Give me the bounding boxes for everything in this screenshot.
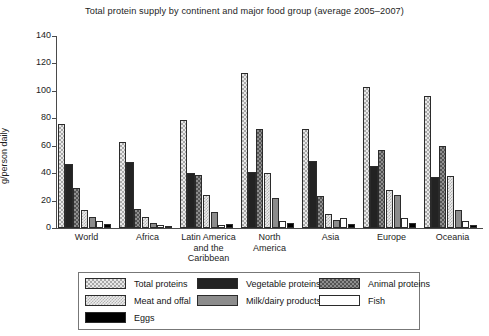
legend-swatch-icon: [197, 278, 238, 289]
plot-area: [56, 36, 483, 228]
bar: [165, 226, 172, 228]
bar-group: [363, 36, 416, 228]
bar: [317, 196, 324, 228]
bar: [203, 195, 210, 228]
bar: [104, 224, 111, 228]
bar: [119, 142, 126, 228]
y-axis-tick: [52, 118, 56, 119]
bar: [81, 210, 88, 228]
bar: [340, 218, 347, 228]
bar: [211, 212, 218, 228]
bar: [348, 224, 355, 228]
x-axis-category-label: Oceania: [413, 232, 489, 243]
bar: [73, 188, 80, 228]
bar: [470, 225, 477, 228]
bar: [439, 146, 446, 228]
legend-label: Fish: [368, 296, 385, 306]
bar: [134, 209, 141, 228]
bar: [401, 218, 408, 228]
y-axis-tick: [52, 201, 56, 202]
legend-item[interactable]: Fish: [319, 294, 385, 307]
bar: [287, 223, 294, 228]
legend-label: Milk/dairy products: [246, 296, 321, 306]
legend-item[interactable]: Animal proteins: [319, 277, 430, 290]
bar-group: [241, 36, 294, 228]
bar: [218, 225, 225, 228]
legend-label: Total proteins: [134, 279, 188, 289]
legend-items: Total proteinsVegetable proteinsAnimal p…: [79, 273, 419, 329]
legend-swatch-icon: [319, 278, 360, 289]
y-axis-tick: [52, 146, 56, 147]
y-axis-tick: [52, 36, 56, 37]
bar-group: [302, 36, 355, 228]
bar: [195, 175, 202, 228]
bar: [58, 124, 65, 228]
bar: [226, 224, 233, 228]
legend-item[interactable]: Vegetable proteins: [197, 277, 321, 290]
chart-legend: Total proteinsVegetable proteinsAnimal p…: [78, 272, 420, 330]
legend-label: Animal proteins: [368, 279, 430, 289]
y-axis-tick-labels: 020406080100120140: [18, 36, 51, 229]
bar: [378, 150, 385, 228]
bar: [325, 214, 332, 228]
legend-swatch-icon: [85, 278, 126, 289]
bar: [272, 198, 279, 228]
legend-label: Vegetable proteins: [246, 279, 321, 289]
legend-swatch-icon: [197, 295, 238, 306]
bar-group: [119, 36, 172, 228]
legend-item[interactable]: Meat and offal: [85, 294, 191, 307]
y-axis-tick-label: 120: [18, 57, 51, 67]
bar: [157, 225, 164, 228]
bar-group: [424, 36, 477, 228]
bar: [309, 161, 316, 228]
y-axis-tick-label: 60: [18, 140, 51, 150]
legend-label: Eggs: [134, 313, 155, 323]
bar: [363, 87, 370, 228]
x-axis-line: [56, 228, 483, 229]
chart-container: Total protein supply by continent and ma…: [0, 0, 489, 336]
bar: [394, 195, 401, 228]
bar: [333, 220, 340, 228]
bar: [89, 217, 96, 228]
legend-swatch-icon: [85, 312, 126, 323]
bar: [65, 164, 72, 228]
legend-item[interactable]: Eggs: [85, 311, 155, 324]
y-axis-tick: [52, 63, 56, 64]
y-axis-tick-label: 0: [18, 222, 51, 232]
bar: [386, 190, 393, 228]
legend-item[interactable]: Total proteins: [85, 277, 188, 290]
bar: [126, 162, 133, 228]
bar: [264, 173, 271, 228]
chart-title: Total protein supply by continent and ma…: [0, 6, 489, 16]
legend-item[interactable]: Milk/dairy products: [197, 294, 321, 307]
bar: [409, 223, 416, 228]
bar: [302, 129, 309, 228]
bar: [96, 221, 103, 228]
bar: [248, 172, 255, 228]
y-axis-tick: [52, 228, 56, 229]
y-axis-tick-label: 40: [18, 167, 51, 177]
legend-swatch-icon: [319, 295, 360, 306]
bar: [370, 166, 377, 228]
bar: [447, 176, 454, 228]
y-axis-tick-label: 100: [18, 85, 51, 95]
y-axis-tick-label: 140: [18, 30, 51, 40]
bar: [180, 120, 187, 228]
legend-swatch-icon: [85, 295, 126, 306]
bar-group: [180, 36, 233, 228]
y-axis-title-wrap: g/person daily: [0, 36, 16, 229]
y-axis-tick: [52, 91, 56, 92]
bar: [256, 129, 263, 228]
bar: [142, 217, 149, 228]
bar: [431, 177, 438, 228]
y-axis-tick-label: 20: [18, 195, 51, 205]
legend-label: Meat and offal: [134, 296, 191, 306]
bar: [455, 210, 462, 228]
y-axis-tick-label: 80: [18, 112, 51, 122]
bar: [187, 173, 194, 228]
bar: [279, 221, 286, 228]
y-axis-title: g/person daily: [0, 128, 9, 184]
bar-group: [58, 36, 111, 228]
bar: [424, 96, 431, 228]
bar: [462, 221, 469, 228]
